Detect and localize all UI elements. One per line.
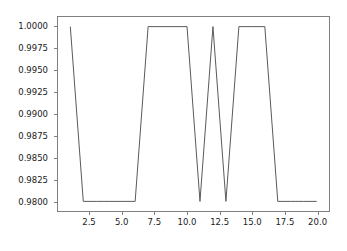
- y-tick-label: 0.9825: [18, 176, 48, 185]
- data-line: [70, 27, 316, 202]
- x-tick-label: 2.5: [82, 218, 96, 227]
- data-line-svg: [58, 17, 329, 211]
- plot-area: [57, 16, 330, 212]
- x-axis-tick-labels: 2.55.07.510.012.515.017.520.0: [0, 218, 347, 238]
- x-tick-mark: [318, 212, 319, 215]
- y-tick-label: 0.9925: [18, 88, 48, 97]
- x-tick-label: 15.0: [243, 218, 262, 227]
- y-tick-label: 0.9975: [18, 44, 48, 53]
- x-tick-label: 5.0: [115, 218, 129, 227]
- y-tick-label: 0.9800: [18, 198, 48, 207]
- x-tick-label: 20.0: [308, 218, 327, 227]
- x-tick-mark: [154, 212, 155, 215]
- y-tick-label: 0.9900: [18, 110, 48, 119]
- x-tick-mark: [285, 212, 286, 215]
- x-tick-mark: [187, 212, 188, 215]
- y-tick-label: 1.0000: [18, 21, 48, 30]
- x-tick-mark: [220, 212, 221, 215]
- x-tick-label: 17.5: [275, 218, 294, 227]
- x-tick-mark: [252, 212, 253, 215]
- x-tick-mark: [122, 212, 123, 215]
- x-tick-label: 12.5: [210, 218, 229, 227]
- y-tick-label: 0.9950: [18, 66, 48, 75]
- y-tick-label: 0.9850: [18, 154, 48, 163]
- figure-canvas: 0.98000.98250.98500.98750.99000.99250.99…: [0, 0, 347, 251]
- y-axis-tick-labels: 0.98000.98250.98500.98750.99000.99250.99…: [0, 0, 48, 251]
- x-tick-mark: [89, 212, 90, 215]
- y-tick-label: 0.9875: [18, 132, 48, 141]
- x-tick-label: 10.0: [178, 218, 197, 227]
- x-tick-label: 7.5: [148, 218, 162, 227]
